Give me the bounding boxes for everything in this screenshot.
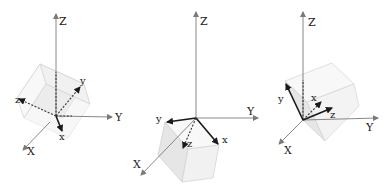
label-world-z: Z (200, 15, 208, 28)
label-world-x: X (133, 158, 141, 171)
label-body-y: y (79, 75, 86, 86)
label-world-y: Y (114, 111, 123, 124)
rotated-cube-diagram: Z Y X y z x Z Y X y x z (0, 0, 392, 194)
label-body-z: z (15, 94, 20, 105)
label-body-y: y (155, 113, 162, 124)
panel-middle: Z Y X y x z (133, 12, 258, 182)
label-world-z: Z (308, 16, 316, 29)
label-world-y: Y (365, 121, 374, 134)
label-body-x: x (311, 92, 317, 103)
label-world-x: X (27, 145, 35, 158)
panel-left: Z Y X y z x (15, 14, 123, 158)
label-world-y: Y (246, 105, 255, 118)
panel-right: Z Y X y x z (277, 12, 378, 157)
label-body-x: x (222, 134, 228, 145)
label-body-x: x (59, 131, 65, 142)
label-world-x: X (284, 144, 292, 157)
label-body-z: z (330, 109, 335, 120)
label-world-z: Z (59, 15, 67, 28)
cube (158, 118, 219, 182)
label-body-y: y (277, 93, 284, 104)
label-body-z: z (187, 138, 192, 149)
world-x-axis (279, 120, 303, 144)
cube (285, 63, 359, 141)
